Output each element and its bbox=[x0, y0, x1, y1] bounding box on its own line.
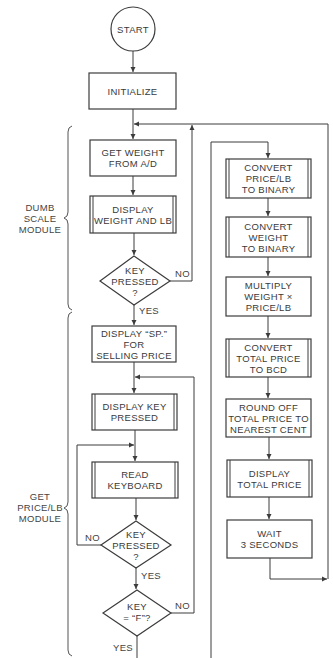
multiply-line1: MULTIPLY bbox=[245, 280, 292, 291]
kp2-no-label: NO bbox=[85, 532, 100, 543]
start-label: START bbox=[111, 23, 155, 35]
kp1-line2: PRESSED bbox=[111, 276, 159, 287]
read-keyboard-line2: KEYBOARD bbox=[107, 480, 162, 491]
get-price-line3: MODULE bbox=[16, 513, 64, 524]
get-price-line2: PRICE/LB bbox=[16, 502, 64, 513]
initialize-text: INITIALIZE bbox=[108, 86, 158, 97]
convert-weight-line3: TO BINARY bbox=[242, 243, 296, 254]
round-off-label: ROUND OFF TOTAL PRICE TO NEAREST CENT bbox=[226, 399, 311, 437]
kf-no-label: NO bbox=[175, 600, 190, 611]
convert-price-line1: CONVERT bbox=[244, 162, 292, 173]
dumb-scale-brace bbox=[64, 126, 72, 310]
display-sp-line3: SELLING PRICE bbox=[96, 350, 172, 361]
key-pressed-2-label: KEY PRESSED ? bbox=[101, 527, 171, 563]
convert-weight-line2: WEIGHT bbox=[249, 232, 289, 243]
multiply-label: MULTIPLY WEIGHT × PRICE/LB bbox=[226, 277, 311, 316]
convert-total-line2: TOTAL PRICE bbox=[236, 353, 300, 364]
initialize-label: INITIALIZE bbox=[89, 73, 176, 109]
convert-price-label: CONVERT PRICE/LB TO BINARY bbox=[226, 159, 311, 198]
display-total-label: DISPLAY TOTAL PRICE bbox=[227, 460, 312, 497]
display-weight-line2: WEIGHT AND LB bbox=[94, 215, 172, 226]
convert-price-line2: PRICE/LB bbox=[246, 173, 292, 184]
multiply-line3: PRICE/LB bbox=[246, 302, 292, 313]
kf-line1: KEY bbox=[127, 601, 147, 612]
get-price-module-label: GET PRICE/LB MODULE bbox=[16, 491, 64, 524]
get-price-line1: GET bbox=[16, 491, 64, 502]
dumb-scale-line2: SCALE bbox=[18, 213, 62, 224]
dumb-scale-line1: DUMB bbox=[18, 202, 62, 213]
display-weight-label: DISPLAY WEIGHT AND LB bbox=[90, 196, 176, 233]
display-key-label: DISPLAY KEY PRESSED bbox=[92, 394, 177, 430]
display-total-line2: TOTAL PRICE bbox=[237, 479, 301, 490]
kp1-yes-label: YES bbox=[139, 305, 159, 316]
key-pressed-1-label: KEY PRESSED ? bbox=[100, 263, 170, 299]
kp1-no-label: NO bbox=[175, 268, 190, 279]
kp2-line2: PRESSED bbox=[112, 540, 160, 551]
wait-line1: WAIT bbox=[257, 528, 282, 539]
display-weight-line1: DISPLAY bbox=[112, 204, 154, 215]
start-text: START bbox=[117, 24, 149, 35]
display-sp-label: DISPLAY “SP.” FOR SELLING PRICE bbox=[92, 326, 176, 362]
get-weight-line1: GET WEIGHT bbox=[102, 147, 165, 158]
get-weight-line2: FROM A/D bbox=[109, 158, 157, 169]
multiply-line2: WEIGHT × bbox=[244, 291, 292, 302]
key-f-label: KEY = “F”? bbox=[103, 600, 171, 624]
round-off-line3: NEAREST CENT bbox=[230, 424, 307, 435]
display-key-line1: DISPLAY KEY bbox=[102, 401, 166, 412]
kf-line2: = “F”? bbox=[123, 612, 150, 623]
get-price-brace bbox=[64, 312, 72, 656]
kp2-line3: ? bbox=[133, 551, 139, 562]
convert-total-line3: TO BCD bbox=[250, 364, 288, 375]
display-key-line2: PRESSED bbox=[111, 412, 159, 423]
kf-yes-label: YES bbox=[113, 642, 133, 653]
read-keyboard-line1: READ bbox=[121, 469, 149, 480]
display-sp-line1: DISPLAY “SP.” bbox=[101, 328, 167, 339]
read-keyboard-label: READ KEYBOARD bbox=[92, 462, 178, 498]
kp2-line1: KEY bbox=[126, 529, 146, 540]
kp1-line1: KEY bbox=[125, 265, 145, 276]
dumb-scale-module-label: DUMB SCALE MODULE bbox=[18, 202, 62, 235]
wait-label: WAIT 3 SECONDS bbox=[227, 520, 312, 558]
dumb-scale-line3: MODULE bbox=[18, 224, 62, 235]
display-sp-line2: FOR bbox=[124, 339, 145, 350]
kp2-yes-label: YES bbox=[141, 570, 161, 581]
convert-weight-label: CONVERT WEIGHT TO BINARY bbox=[226, 217, 311, 257]
kp1-line3: ? bbox=[132, 287, 138, 298]
display-total-line1: DISPLAY bbox=[249, 468, 291, 479]
get-weight-label: GET WEIGHT FROM A/D bbox=[90, 140, 176, 176]
wait-line2: 3 SECONDS bbox=[241, 539, 299, 550]
convert-total-line1: CONVERT bbox=[244, 342, 292, 353]
convert-total-label: CONVERT TOTAL PRICE TO BCD bbox=[226, 339, 311, 377]
convert-weight-line1: CONVERT bbox=[244, 221, 292, 232]
convert-price-line3: TO BINARY bbox=[242, 184, 296, 195]
round-off-line1: ROUND OFF bbox=[239, 402, 298, 413]
round-off-line2: TOTAL PRICE TO bbox=[228, 413, 309, 424]
